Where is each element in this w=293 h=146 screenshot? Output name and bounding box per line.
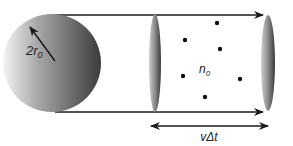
density-label: n0 <box>199 62 211 78</box>
length-label: vΔt <box>200 130 218 144</box>
particle <box>238 77 242 81</box>
cylinder-start-ellipse <box>149 14 161 112</box>
particle <box>215 21 219 25</box>
target-particles <box>181 21 242 99</box>
particle <box>183 38 187 42</box>
moving-sphere <box>3 14 101 112</box>
particle <box>203 95 207 99</box>
particle <box>181 74 185 78</box>
particle <box>218 47 222 51</box>
collision-cylinder-diagram: 2r0 n0 vΔt <box>0 0 293 146</box>
cylinder-end-ellipse <box>261 15 275 111</box>
